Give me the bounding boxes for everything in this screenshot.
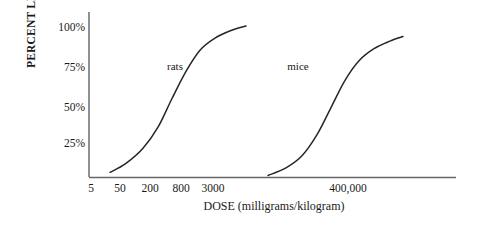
x-tick-label-800: 800 xyxy=(172,182,189,195)
x-tick-label-5: 5 xyxy=(88,182,94,195)
curve-label-mice: mice xyxy=(287,60,308,72)
x-tick-label-50: 50 xyxy=(114,182,126,195)
x-tick-label-400000: 400,000 xyxy=(329,182,366,195)
x-axis-title: DOSE (milligrams/kilogram) xyxy=(204,199,345,213)
curve-rats xyxy=(110,26,246,172)
curve-mice xyxy=(268,37,403,176)
curve-label-rats: rats xyxy=(167,60,183,72)
x-tick-label-200: 200 xyxy=(141,182,158,195)
dose-response-chart: PERCENT LETHALITY 100% 75% 50% 25% rats … xyxy=(0,0,478,237)
x-axis-title-wrap: DOSE (milligrams/kilogram) xyxy=(0,199,478,214)
x-tick-label-3000: 3000 xyxy=(202,182,225,195)
